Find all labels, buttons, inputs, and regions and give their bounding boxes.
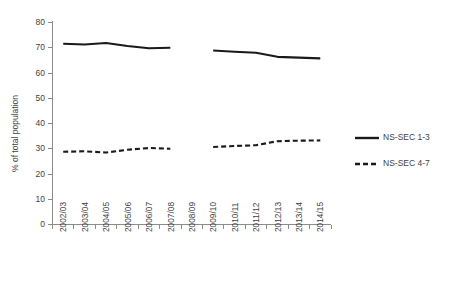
- y-tick-label: 70: [36, 42, 46, 52]
- y-axis-title-text: % of total population: [10, 95, 20, 172]
- y-axis-title: % of total population: [10, 95, 20, 172]
- x-tick-label: 2011/12: [251, 202, 261, 232]
- x-tick-label: 2014/15: [315, 202, 325, 232]
- series-lines: [63, 43, 320, 153]
- x-tick-label: 2004/05: [101, 202, 111, 232]
- y-tick-label: 20: [36, 169, 46, 179]
- y-tick-label: 60: [36, 68, 46, 78]
- x-tick-label: 2008/09: [187, 202, 197, 232]
- y-tick-label: 50: [36, 93, 46, 103]
- series-line-2: [213, 140, 320, 147]
- x-tick-label: 2010/11: [230, 202, 240, 232]
- y-tick-label: 80: [36, 17, 46, 27]
- y-tick-label: 0: [40, 219, 45, 229]
- x-tick-label: 2009/10: [208, 202, 218, 232]
- chart-container: % of total population 01020304050607080 …: [0, 0, 449, 285]
- line-chart: % of total population 01020304050607080 …: [0, 0, 449, 285]
- y-axis-ticks: 01020304050607080: [36, 17, 53, 229]
- x-tick-label: 2003/04: [80, 202, 90, 232]
- legend-label-1: NS-SEC 1-3: [383, 132, 430, 142]
- y-tick-label: 10: [36, 194, 46, 204]
- x-tick-label: 2006/07: [144, 202, 154, 232]
- y-tick-label: 40: [36, 118, 46, 128]
- series-line-1: [213, 51, 320, 59]
- x-axis-ticks: 2002/032003/042004/052005/062006/072007/…: [53, 202, 332, 232]
- series-line-1: [63, 43, 170, 48]
- y-tick-label: 30: [36, 143, 46, 153]
- x-tick-label: 2002/03: [58, 202, 68, 232]
- x-tick-label: 2007/08: [166, 202, 176, 232]
- chart-legend: NS-SEC 1-3NS-SEC 4-7: [355, 132, 430, 168]
- x-tick-label: 2012/13: [273, 202, 283, 232]
- legend-label-2: NS-SEC 4-7: [383, 158, 430, 168]
- x-tick-label: 2005/06: [123, 202, 133, 232]
- series-line-2: [63, 148, 170, 153]
- x-tick-label: 2013/14: [294, 202, 304, 232]
